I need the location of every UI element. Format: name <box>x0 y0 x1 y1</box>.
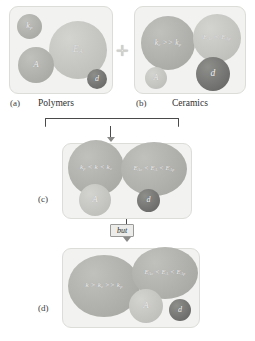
bubble-k-comparison: kc >> kp <box>141 16 195 70</box>
plus-connector-icon: ✛ <box>116 44 129 59</box>
bracket-connector <box>45 118 179 127</box>
panel-c-composite: kp < k < kc EAc < EA < EAp A d <box>62 143 192 219</box>
bubble-activation-energy-range-label: EAc < EA < EAp <box>133 165 174 172</box>
bubble-activation-energy-comparison-label: EAc < EAp <box>203 34 231 42</box>
bubble-thickness-label: d <box>178 306 182 314</box>
bubble-k-p: kp <box>17 14 42 39</box>
bubble-k-superior-label: k > kc >> kp <box>86 282 123 290</box>
bubble-thickness-label: d <box>95 75 99 83</box>
bubble-area: A <box>145 67 167 89</box>
panel-letter-b: (b) <box>136 98 147 108</box>
bubble-thickness: d <box>196 57 230 91</box>
panel-a-polymers: kp EA A d <box>9 6 113 94</box>
panel-letter-a: (a) <box>10 98 20 108</box>
panel-letter-c: (c) <box>38 194 48 204</box>
but-arrow-icon <box>123 237 131 242</box>
bubble-activation-energy-range-label: EAc < EA < EAp <box>144 269 185 276</box>
bubble-thickness: d <box>169 299 191 321</box>
bubble-thickness: d <box>137 189 160 212</box>
bubble-activation-energy-label: EA <box>73 45 83 55</box>
bracket-arrow-icon <box>107 137 115 142</box>
bubble-activation-energy-range: EAc < EA < EAp <box>121 142 187 196</box>
caption-ceramics: Ceramics <box>172 98 208 108</box>
bubble-activation-energy-comparison: EAc < EAp <box>193 14 241 62</box>
but-label: but <box>110 224 134 237</box>
bubble-area: A <box>18 47 54 83</box>
bubble-k-p-label: kp <box>26 22 32 30</box>
bubble-thickness-label: d <box>146 196 150 204</box>
bubble-area-label: A <box>143 301 149 310</box>
bubble-area: A <box>79 184 111 216</box>
panel-b-ceramics: kc >> kp EAc < EAp A d <box>134 6 246 94</box>
bubble-thickness-label: d <box>211 69 216 79</box>
panel-d-enhanced: k > kc >> kp EAc < EA < EAp A d <box>62 248 200 328</box>
bubble-area-label: A <box>33 60 39 69</box>
bubble-k-comparison-label: kc >> kp <box>155 39 182 48</box>
panel-letter-d: (d) <box>38 303 49 313</box>
bubble-k-range-label: kp < k < kc <box>80 164 112 172</box>
bubble-thickness: d <box>87 69 107 89</box>
caption-polymers: Polymers <box>38 98 74 108</box>
bubble-area-label: A <box>92 195 98 204</box>
bubble-area: A <box>129 289 163 323</box>
bubble-area-label: A <box>153 74 158 82</box>
